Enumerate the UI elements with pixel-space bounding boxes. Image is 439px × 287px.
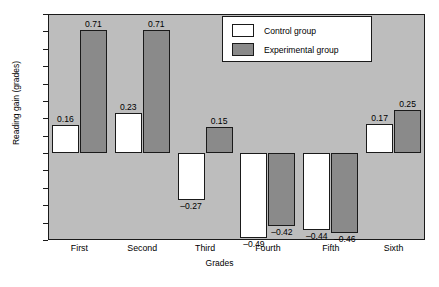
legend-label-control: Control group [264, 26, 316, 36]
bar-fourth-control [240, 153, 267, 238]
legend-swatch-control-icon [232, 24, 254, 37]
x-tick-label-fourth: Fourth [237, 243, 300, 253]
y-axis-title: Reading gain (grades) [11, 3, 21, 203]
bar-third-experimental [206, 127, 233, 153]
bar-second-control [115, 113, 142, 153]
y-tick-mark [43, 84, 48, 85]
y-tick-mark [43, 170, 48, 171]
bar-value-label: 0.71 [72, 19, 115, 29]
y-tick-mark [43, 188, 48, 189]
x-tick-label-sixth: Sixth [362, 243, 425, 253]
bar-value-label: 0.15 [198, 116, 241, 126]
y-tick-mark [43, 31, 48, 32]
x-tick-label-first: First [48, 243, 111, 253]
bar-fourth-experimental [268, 153, 295, 226]
bar-sixth-control [366, 124, 393, 154]
bar-value-label: 0.71 [135, 19, 178, 29]
y-tick-mark [43, 66, 48, 67]
figure: Reading gain (grades) 0.80.70.60.50.40.3… [0, 0, 439, 287]
legend-item-control: Control group [232, 24, 316, 37]
bar-fifth-control [303, 153, 330, 229]
y-tick-mark [43, 101, 48, 102]
y-tick-mark [43, 49, 48, 50]
bar-first-experimental [80, 30, 107, 153]
bar-first-control [52, 125, 79, 153]
y-tick-mark [43, 223, 48, 224]
chart-legend: Control group Experimental group [222, 16, 372, 62]
legend-swatch-experimental-icon [232, 43, 254, 56]
y-tick-mark [43, 240, 48, 241]
bar-value-label: –0.27 [170, 201, 213, 211]
bar-value-label: 0.25 [386, 99, 429, 109]
legend-item-experimental: Experimental group [232, 43, 339, 56]
x-axis-title: Grades [0, 258, 439, 268]
x-tick-label-third: Third [174, 243, 237, 253]
x-tick-label-fifth: Fifth [299, 243, 362, 253]
legend-label-experimental: Experimental group [264, 45, 339, 55]
y-tick-mark [43, 136, 48, 137]
bar-second-experimental [143, 30, 170, 153]
y-tick-mark [43, 153, 48, 154]
x-tick-label-second: Second [111, 243, 174, 253]
bar-fifth-experimental [331, 153, 358, 233]
y-tick-mark [43, 14, 48, 15]
y-tick-mark [43, 205, 48, 206]
bar-sixth-experimental [394, 110, 421, 153]
bar-third-control [178, 153, 205, 200]
